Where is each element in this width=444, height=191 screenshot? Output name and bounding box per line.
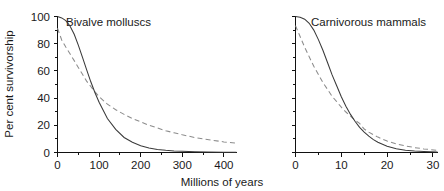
survivorship-figure: Bivalve molluscs 100 80 [0,0,444,191]
panel-carnivorous-mammals: Carnivorous mammals [292,16,440,171]
left-x-tick-labels: 0 100 200 300 400 [54,159,233,171]
xtick-label-300: 300 [173,159,192,171]
left-axis-lines [58,17,237,153]
xtick-label-200: 200 [131,159,150,171]
ytick-label-40: 40 [37,92,50,104]
figure-canvas: Bivalve molluscs 100 80 [0,0,444,191]
ytick-label-80: 80 [37,38,50,50]
curve-bivalve-observed [58,17,237,153]
curve-bivalve-expected [58,28,237,143]
curve-carnivore-observed [296,17,438,153]
panel-title-bivalve: Bivalve molluscs [66,16,151,28]
ytick-label-0: 0 [44,147,50,159]
ytick-label-60: 60 [37,65,50,77]
panel-bivalve-molluscs: Bivalve molluscs 100 80 [31,11,237,172]
ytick-label-20: 20 [37,119,50,131]
curve-carnivore-expected [296,26,438,151]
xtick-label-r10: 10 [335,159,348,171]
left-axes [58,17,237,153]
panel-title-carnivores: Carnivorous mammals [311,16,426,28]
ytick-label-100: 100 [31,11,50,23]
left-y-tick-labels: 100 80 60 40 20 0 [31,11,50,159]
xtick-label-100: 100 [90,159,109,171]
left-x-major-ticks [58,153,224,157]
y-axis-title: Per cent survivorship [3,30,15,137]
xtick-label-r20: 20 [381,159,394,171]
xtick-label-r30: 30 [427,159,440,171]
x-axis-title: Millions of years [181,176,264,188]
xtick-label-0: 0 [54,159,60,171]
xtick-label-r0: 0 [292,159,298,171]
right-x-tick-labels: 0 10 20 30 [292,159,439,171]
xtick-label-400: 400 [214,159,233,171]
